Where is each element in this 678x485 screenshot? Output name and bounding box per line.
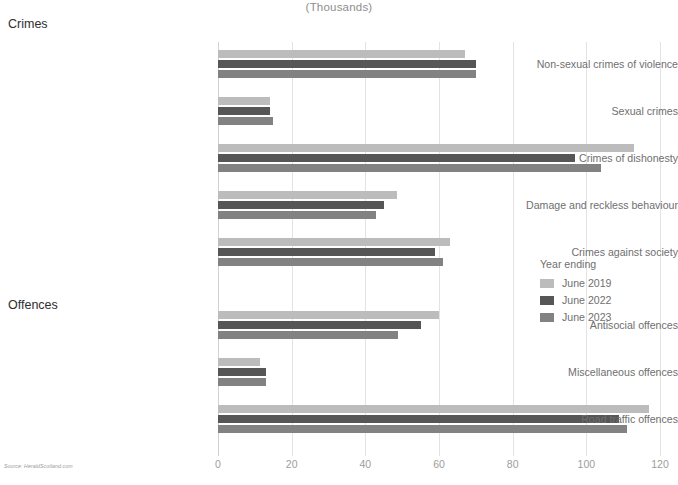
source-note: Source: HeraldScotland.com bbox=[4, 463, 73, 469]
bar bbox=[218, 117, 273, 125]
bar bbox=[218, 368, 266, 376]
bar bbox=[218, 201, 384, 209]
bar bbox=[218, 164, 601, 172]
bar bbox=[218, 331, 398, 339]
category-label: Crimes against society bbox=[470, 246, 678, 258]
bar bbox=[218, 258, 443, 266]
bar bbox=[218, 107, 270, 115]
gridline-60 bbox=[439, 42, 440, 456]
bar bbox=[218, 50, 465, 58]
bar bbox=[218, 70, 476, 78]
x-tick-60: 60 bbox=[433, 458, 445, 470]
bar bbox=[218, 97, 270, 105]
x-tick-80: 80 bbox=[507, 458, 519, 470]
category-label: Damage and reckless behaviour bbox=[470, 199, 678, 211]
x-tick-120: 120 bbox=[651, 458, 669, 470]
legend-swatch-icon bbox=[540, 313, 554, 322]
category-label: Sexual crimes bbox=[470, 105, 678, 117]
x-tick-100: 100 bbox=[578, 458, 596, 470]
bar bbox=[218, 211, 376, 219]
bar bbox=[218, 248, 435, 256]
category-label: Road traffic offences bbox=[470, 413, 678, 425]
bar bbox=[218, 191, 397, 199]
legend-label: June 2023 bbox=[562, 311, 611, 323]
bar bbox=[218, 425, 627, 433]
category-label: Miscellaneous offences bbox=[470, 366, 678, 378]
bar bbox=[218, 238, 450, 246]
bar bbox=[218, 378, 266, 386]
category-label: Crimes of dishonesty bbox=[470, 152, 678, 164]
bar bbox=[218, 311, 439, 319]
legend: Year ending June 2019June 2022June 2023 bbox=[540, 258, 611, 328]
legend-swatch-icon bbox=[540, 296, 554, 305]
bar bbox=[218, 144, 634, 152]
section-heading-offences: Offences bbox=[8, 298, 58, 312]
legend-item[interactable]: June 2019 bbox=[540, 277, 611, 289]
legend-title: Year ending bbox=[540, 258, 611, 270]
legend-item[interactable]: June 2023 bbox=[540, 311, 611, 323]
legend-label: June 2019 bbox=[562, 277, 611, 289]
x-tick-40: 40 bbox=[359, 458, 371, 470]
bar bbox=[218, 60, 476, 68]
chart-title: (Thousands) bbox=[0, 1, 678, 13]
chart-figure: (Thousands) Crimes Offences Non-sexual c… bbox=[0, 0, 678, 485]
category-label: Non-sexual crimes of violence bbox=[470, 58, 678, 70]
legend-label: June 2022 bbox=[562, 294, 611, 306]
legend-item[interactable]: June 2022 bbox=[540, 294, 611, 306]
bar bbox=[218, 405, 649, 413]
x-tick-0: 0 bbox=[215, 458, 221, 470]
x-tick-20: 20 bbox=[286, 458, 298, 470]
legend-swatch-icon bbox=[540, 279, 554, 288]
bar bbox=[218, 358, 260, 366]
bar bbox=[218, 321, 421, 329]
section-heading-crimes: Crimes bbox=[8, 17, 48, 31]
